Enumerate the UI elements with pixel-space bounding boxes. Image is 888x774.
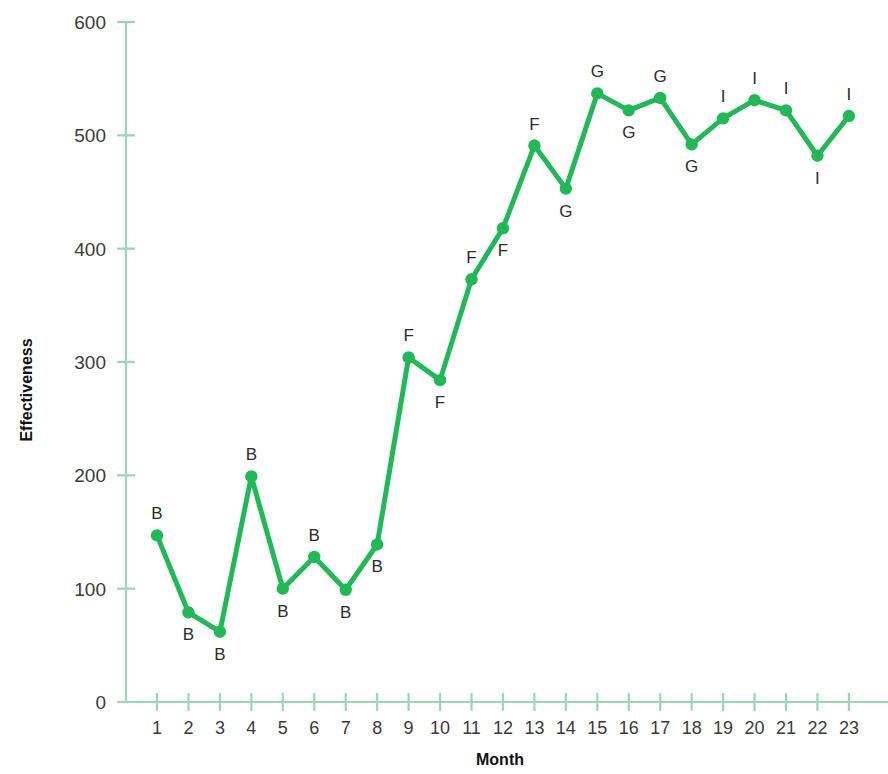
y-axis-tick-label: 600 — [74, 12, 106, 33]
data-point-marker — [434, 374, 446, 386]
data-point-label: F — [466, 248, 476, 267]
data-point-marker — [717, 112, 729, 124]
data-point-label: G — [685, 157, 698, 176]
data-point-marker — [780, 104, 792, 116]
chart-container: 0100200300400500600 12345678910111213141… — [0, 0, 888, 774]
data-point-marker — [371, 538, 383, 550]
x-axis-tick-label: 6 — [309, 718, 319, 738]
data-point-label: F — [498, 241, 508, 260]
x-axis-tick-label: 17 — [650, 718, 670, 738]
data-point-marker — [151, 529, 163, 541]
data-point-label: G — [654, 67, 667, 86]
y-axis-tick-label: 0 — [95, 692, 106, 713]
x-axis-tick-label: 19 — [713, 718, 733, 738]
x-axis-tick-label: 13 — [524, 718, 544, 738]
x-axis-tick-label: 14 — [556, 718, 576, 738]
x-axis-tick-label: 8 — [372, 718, 382, 738]
y-axis-title: Effectiveness — [18, 338, 35, 441]
x-axis-tick-label: 22 — [807, 718, 827, 738]
data-point-marker — [623, 104, 635, 116]
data-point-label: B — [151, 504, 162, 523]
data-point-marker — [497, 222, 509, 234]
data-point-marker — [277, 582, 289, 594]
data-point-label: G — [622, 123, 635, 142]
data-point-label: G — [591, 62, 604, 81]
x-axis-tick-label: 16 — [619, 718, 639, 738]
x-axis-tick-label: 20 — [745, 718, 765, 738]
data-point-label: I — [815, 169, 820, 188]
data-point-label: B — [309, 526, 320, 545]
x-axis-tick-label: 18 — [682, 718, 702, 738]
data-point-marker — [591, 87, 603, 99]
data-point-label: B — [371, 557, 382, 576]
data-point-label: B — [214, 645, 225, 664]
data-point-label: B — [340, 603, 351, 622]
data-point-label: I — [847, 85, 852, 104]
data-point-marker — [685, 138, 697, 150]
data-point-marker — [748, 94, 760, 106]
data-point-label: I — [752, 69, 757, 88]
data-point-marker — [560, 182, 572, 194]
data-point-marker — [654, 92, 666, 104]
x-axis-tick-label: 9 — [404, 718, 414, 738]
data-point-label: F — [403, 326, 413, 345]
y-axis-tick-label: 100 — [74, 579, 106, 600]
data-point-marker — [245, 470, 257, 482]
data-point-marker — [402, 351, 414, 363]
data-point-label: B — [246, 445, 257, 464]
data-point-marker — [843, 110, 855, 122]
x-axis-tick-label: 2 — [183, 718, 193, 738]
chart-background — [0, 0, 888, 774]
data-point-marker — [214, 626, 226, 638]
data-point-marker — [465, 273, 477, 285]
y-axis-tick-label: 300 — [74, 352, 106, 373]
x-axis-tick-label: 10 — [430, 718, 450, 738]
y-axis-tick-label: 500 — [74, 125, 106, 146]
x-axis-tick-label: 5 — [278, 718, 288, 738]
data-point-marker — [340, 584, 352, 596]
data-point-label: F — [529, 115, 539, 134]
x-axis-tick-label: 3 — [215, 718, 225, 738]
data-point-label: I — [721, 87, 726, 106]
data-point-label: F — [435, 393, 445, 412]
x-axis-tick-label: 15 — [587, 718, 607, 738]
data-point-label: I — [784, 79, 789, 98]
x-axis-tick-label: 12 — [493, 718, 513, 738]
y-axis-tick-label: 400 — [74, 239, 106, 260]
x-axis-tick-label: 7 — [341, 718, 351, 738]
data-point-marker — [182, 606, 194, 618]
data-point-marker — [528, 139, 540, 151]
y-axis-tick-label: 200 — [74, 465, 106, 486]
data-point-label: G — [559, 202, 572, 221]
data-point-marker — [308, 551, 320, 563]
x-axis-tick-label: 21 — [776, 718, 796, 738]
data-point-label: B — [183, 625, 194, 644]
x-axis-tick-label: 23 — [839, 718, 859, 738]
x-axis-title: Month — [476, 751, 524, 768]
x-axis-tick-label: 4 — [246, 718, 256, 738]
data-point-marker — [811, 150, 823, 162]
x-axis-tick-label: 11 — [462, 718, 481, 738]
effectiveness-by-month-line-chart: 0100200300400500600 12345678910111213141… — [0, 0, 888, 774]
x-axis-tick-label: 1 — [152, 718, 162, 738]
data-point-label: B — [277, 602, 288, 621]
